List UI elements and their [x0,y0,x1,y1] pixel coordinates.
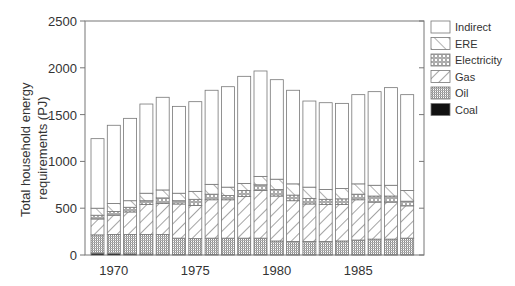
bar-segment-electricity [303,198,316,204]
bar-segment-indirect [189,102,202,192]
bar-segment-gas [303,204,316,241]
bar-1978 [238,76,251,255]
bar-segment-gas [352,200,365,240]
bar-segment-indirect [336,103,349,188]
bar-segment-ere [287,184,300,195]
bar-segment-ere [336,189,349,199]
bar-1981 [287,90,300,255]
bar-segment-oil [156,234,169,254]
y-axis-title: Total household energy requirements (PJ) [18,79,50,217]
bar-segment-electricity [124,207,137,212]
bar-segment-gas [140,204,153,234]
bar-segment-indirect [384,88,397,186]
bar-segment-oil [336,241,349,255]
bar-segment-electricity [156,198,169,204]
bar-segment-oil [140,234,153,254]
bar-segment-oil [352,240,365,255]
bar-segment-indirect [156,97,169,190]
x-tick-label: 1985 [344,263,373,278]
bar-segment-electricity [270,189,283,196]
bar-segment-indirect [368,92,381,186]
bar-segment-electricity [254,185,267,191]
bar-1980 [270,80,283,255]
y-tick-label: 1000 [48,154,77,169]
bar-segment-indirect [254,71,267,176]
bar-segment-ere [205,184,218,194]
bar-segment-electricity [221,196,234,200]
bar-segment-gas [368,202,381,239]
bar-segment-ere [401,190,414,201]
bar-1986 [368,92,381,255]
plot-area: 05001000150020002500 1970197519801985 [48,14,424,278]
bar-segment-electricity [205,194,218,200]
bar-segment-gas [384,202,397,239]
bar-1973 [156,97,169,255]
bar-1979 [254,71,267,255]
bar-segment-electricity [238,190,251,196]
bar-segment-indirect [140,104,153,193]
bar-segment-indirect [352,95,365,184]
x-tick-label: 1975 [181,263,210,278]
bar-segment-gas [319,204,332,241]
bar-segment-electricity [173,201,186,204]
legend-item-coal: Coal [431,104,478,116]
bar-segment-indirect [287,90,300,184]
legend-swatch-icon [431,87,450,99]
bar-1970 [107,125,120,255]
legend: IndirectEREElectricityGasOilCoal [431,21,503,116]
bars [91,71,414,255]
legend-label: Coal [455,104,478,116]
bar-segment-indirect [107,125,120,203]
bar-segment-gas [238,197,251,239]
legend-label: Gas [455,71,476,83]
bar-segment-indirect [91,139,104,209]
bar-segment-indirect [238,76,251,183]
bar-segment-oil [221,238,234,254]
bar-segment-gas [107,215,120,234]
bar-segment-oil [319,241,332,254]
x-tick-label: 1980 [262,263,291,278]
bar-segment-electricity [336,199,349,205]
legend-swatch-icon [431,21,450,33]
bar-segment-oil [205,238,218,254]
bar-segment-ere [352,184,365,194]
legend-swatch-icon [431,54,450,66]
bar-1984 [336,103,349,255]
bar-segment-gas [124,212,137,234]
bar-segment-oil [124,234,137,253]
bar-segment-ere [124,201,137,208]
bar-segment-gas [189,205,202,238]
x-axis-ticks: 1970197519801985 [99,263,372,278]
bar-segment-oil [287,241,300,254]
bar-segment-ere [221,187,234,195]
bar-segment-electricity [107,211,120,215]
bar-1976 [205,90,218,255]
legend-swatch-icon [431,104,450,116]
y-tick-label: 0 [70,248,77,263]
bar-segment-indirect [173,106,186,193]
bar-segment-oil [254,238,267,254]
bar-segment-indirect [319,103,332,190]
bar-segment-indirect [270,80,283,179]
bar-1971 [124,118,137,255]
legend-label: Indirect [455,21,491,33]
bar-segment-electricity [91,215,104,219]
bar-segment-oil [189,239,202,255]
bar-1975 [189,102,202,255]
bar-segment-indirect [205,90,218,184]
bar-1988 [401,95,414,255]
bar-1977 [221,87,234,255]
bar-segment-ere [173,193,186,200]
legend-swatch-icon [431,71,450,83]
bar-segment-ere [91,208,104,215]
bar-segment-ere [189,191,202,199]
bar-segment-ere [254,176,267,184]
bar-segment-indirect [303,101,316,187]
bar-1969 [91,139,104,255]
bar-segment-ere [107,204,120,212]
y-axis-ticks: 05001000150020002500 [48,14,424,263]
bar-1972 [140,104,153,255]
bar-segment-gas [156,204,169,235]
bar-segment-gas [91,219,104,235]
y-axis-title-line-1: Total household energy [18,82,33,217]
